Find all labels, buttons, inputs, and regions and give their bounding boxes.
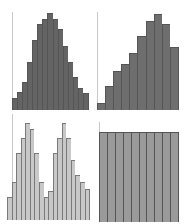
- histogram-bar: [83, 93, 89, 110]
- bars-bimodal: [7, 120, 90, 220]
- histogram-bar: [139, 132, 147, 222]
- histogram-bar: [107, 132, 115, 222]
- histogram-bar: [154, 132, 162, 222]
- histogram-bar: [129, 53, 137, 110]
- histogram-normal: [0, 0, 92, 112]
- histogram-bar: [162, 132, 170, 222]
- histogram-left-skewed: [92, 0, 184, 112]
- histogram-bar: [154, 14, 162, 110]
- histogram-bar: [115, 132, 123, 222]
- histogram-bar: [85, 189, 91, 220]
- histogram-bar: [131, 132, 139, 222]
- histogram-uniform: [92, 112, 184, 224]
- bars-normal: [12, 10, 89, 110]
- histogram-bar: [146, 21, 154, 110]
- histogram-bar: [105, 86, 113, 110]
- bars-left-skewed: [97, 10, 179, 110]
- histogram-bar: [99, 132, 107, 222]
- histogram-bar: [170, 132, 179, 222]
- histogram-bar: [137, 36, 145, 110]
- histogram-bar: [113, 71, 121, 110]
- histogram-bar: [97, 103, 105, 110]
- histogram-bar: [146, 132, 154, 222]
- histogram-bar: [162, 24, 170, 110]
- histogram-bar: [170, 47, 179, 110]
- histogram-bar: [121, 64, 129, 110]
- histogram-bimodal: [0, 112, 92, 224]
- bars-uniform: [99, 132, 179, 222]
- histogram-bar: [123, 132, 131, 222]
